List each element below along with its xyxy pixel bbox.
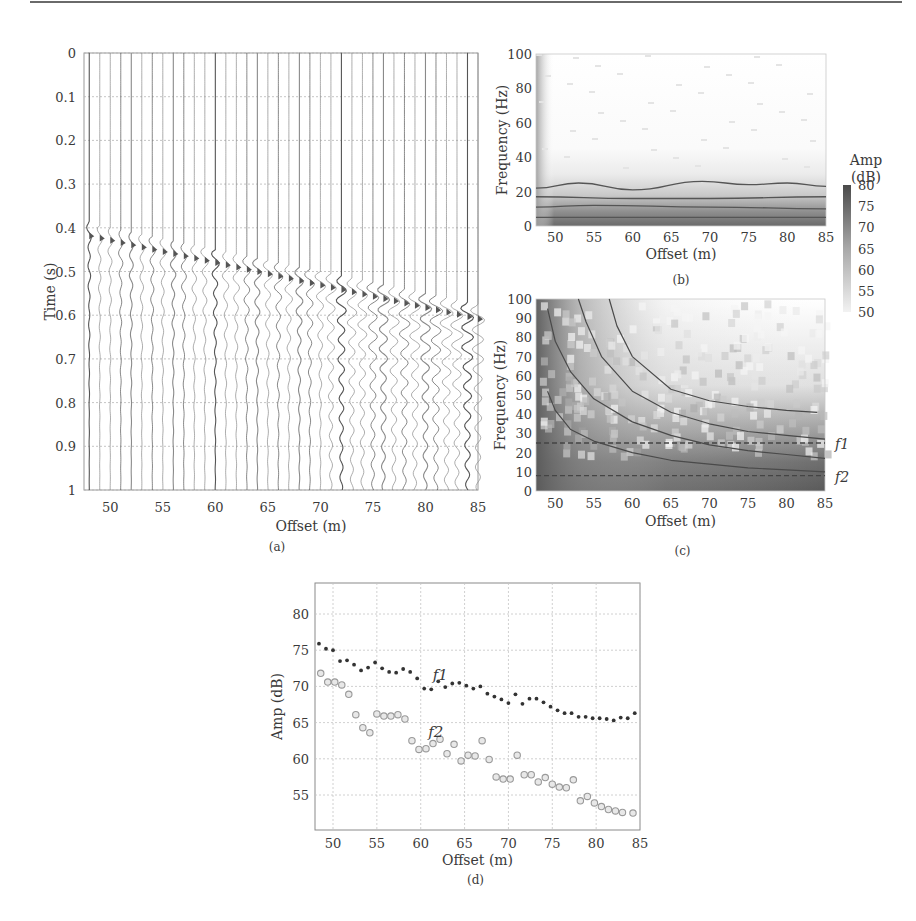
data-point-f2 <box>444 751 450 757</box>
colorbar-tick: 60 <box>858 263 875 278</box>
panel-b-spectrum: 0204060801005055606570758085Offset (m)Fr… <box>494 47 834 287</box>
y-tick-label: 30 <box>515 426 532 441</box>
x-axis-label: Offset (m) <box>645 513 716 529</box>
y-tick-label: 80 <box>515 81 532 96</box>
y-tick-label: 60 <box>515 369 532 384</box>
data-point-f1 <box>535 697 539 701</box>
data-point-f2 <box>479 738 485 744</box>
y-tick-label: 1 <box>68 483 76 498</box>
data-point-f2 <box>325 679 331 685</box>
data-point-f2 <box>549 781 555 787</box>
data-point-f1 <box>373 661 377 665</box>
data-point-f2 <box>465 752 471 758</box>
y-tick-label: 0 <box>524 219 532 234</box>
x-axis-label: Offset (m) <box>275 518 346 534</box>
y-tick-label: 60 <box>292 752 309 767</box>
data-point-f1 <box>345 658 349 662</box>
y-tick-label: 40 <box>515 150 532 165</box>
data-point-f2 <box>346 691 352 697</box>
x-tick-label: 55 <box>586 230 603 245</box>
x-axis-label: Offset (m) <box>645 246 716 262</box>
data-point-f1 <box>549 705 553 709</box>
y-tick-label: 65 <box>292 716 309 731</box>
data-point-f2 <box>451 741 457 747</box>
data-point-f1 <box>359 669 363 673</box>
x-tick-label: 85 <box>818 230 835 245</box>
y-tick-label: 70 <box>292 679 309 694</box>
x-tick-label: 85 <box>632 836 649 851</box>
data-point-f1 <box>556 708 560 712</box>
data-point-f1 <box>612 719 616 723</box>
y-tick-label: 80 <box>292 607 309 622</box>
y-tick-label: 70 <box>515 350 532 365</box>
data-point-f1 <box>478 685 482 689</box>
data-point-f2 <box>486 756 492 762</box>
y-tick-label: 0.4 <box>55 221 76 236</box>
y-tick-label: 20 <box>515 185 532 200</box>
x-tick-label: 70 <box>312 500 329 515</box>
data-point-f1 <box>450 682 454 686</box>
x-tick-label: 70 <box>702 230 719 245</box>
data-point-f1 <box>408 670 412 674</box>
panel-d-scatter: f1f25560657075805055606570758085Offset (… <box>269 583 648 887</box>
data-point-f1 <box>577 715 581 719</box>
data-point-f1 <box>619 716 623 720</box>
data-point-f1 <box>324 647 328 651</box>
data-point-f1 <box>457 681 461 685</box>
y-axis-label: Amp (dB) <box>269 673 285 741</box>
data-point-f2 <box>591 800 597 806</box>
x-tick-label: 75 <box>740 230 757 245</box>
x-tick-label: 80 <box>779 230 796 245</box>
x-tick-label: 75 <box>740 496 757 511</box>
panel-a-seismogram: 00.10.20.30.40.50.60.70.80.9150556065707… <box>42 46 486 554</box>
panel-caption: (d) <box>467 873 484 887</box>
data-point-f2 <box>612 808 618 814</box>
data-point-f2 <box>458 758 464 764</box>
data-point-f1 <box>598 716 602 720</box>
colorbar-tick: 55 <box>858 284 875 299</box>
data-point-f1 <box>380 666 384 670</box>
data-point-f1 <box>507 701 511 705</box>
x-tick-label: 55 <box>369 836 386 851</box>
x-tick-label: 80 <box>588 836 605 851</box>
data-point-f1 <box>626 716 630 720</box>
data-point-f1 <box>500 698 504 702</box>
data-point-f1 <box>485 692 489 696</box>
y-tick-label: 0.5 <box>55 265 76 280</box>
data-point-f1 <box>317 642 321 646</box>
data-point-f2 <box>556 784 562 790</box>
data-point-f1 <box>401 667 405 671</box>
data-point-f1 <box>443 685 447 689</box>
data-point-f2 <box>521 772 527 778</box>
data-point-f2 <box>605 806 611 812</box>
x-tick-label: 65 <box>260 500 277 515</box>
data-point-f2 <box>388 713 394 719</box>
x-tick-label: 65 <box>456 836 473 851</box>
x-tick-label: 50 <box>547 496 564 511</box>
colorbar-tick: 70 <box>858 220 875 235</box>
data-point-f1 <box>387 670 391 674</box>
data-point-f2 <box>416 746 422 752</box>
data-point-f2 <box>619 809 625 815</box>
data-point-f1 <box>528 697 532 701</box>
x-tick-label: 65 <box>663 496 680 511</box>
x-tick-label: 60 <box>624 496 641 511</box>
y-tick-label: 55 <box>292 788 309 803</box>
x-tick-label: 85 <box>817 496 834 511</box>
data-point-f2 <box>339 682 345 688</box>
amp-colorbar: Amp(dB)80757065605550 <box>843 152 882 320</box>
y-tick-label: 0 <box>524 484 532 499</box>
x-tick-label: 80 <box>417 500 434 515</box>
x-tick-label: 80 <box>778 496 795 511</box>
data-point-f1 <box>471 687 475 691</box>
y-tick-label: 0.3 <box>55 177 76 192</box>
colorbar-title: Amp <box>849 152 882 168</box>
y-tick-label: 0 <box>68 46 76 61</box>
data-point-f2 <box>493 774 499 780</box>
y-tick-label: 75 <box>292 643 309 658</box>
y-tick-label: 100 <box>507 47 532 62</box>
colorbar-tick: 80 <box>858 178 875 193</box>
x-tick-label: 70 <box>701 496 718 511</box>
y-tick-label: 60 <box>515 116 532 131</box>
data-point-f2 <box>367 730 373 736</box>
